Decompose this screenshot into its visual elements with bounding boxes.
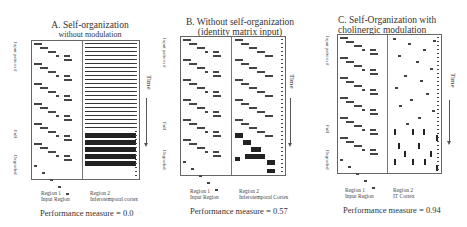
panel-c-time-label: Time [449,73,457,88]
panel-b-full-label: Full [162,122,167,130]
panel-b-performance: Performance measure = 0.57 [190,206,288,216]
panel-c-degraded-label: Degraded [325,150,330,169]
panel-a: A. Self-organization without modulation … [0,0,160,227]
panel-a-region1-label: Region 1 Input Region [41,190,70,202]
panel-a-performance: Performance measure = 0.0 [40,208,134,218]
panel-b-region1-label: Region 1 Input Region [190,188,219,200]
panel-a-region2-label: Region 2 Inferotemporal cortex [90,190,138,202]
panel-c-raster-plot [337,34,442,174]
panel-b-region2-label: Region 2 Inferotemporal Cortex [239,188,288,200]
panel-b: B. Without self-organization (identity m… [150,0,310,227]
panel-c: C. Self-Organization with cholinergic mo… [300,0,467,227]
region-divider [387,35,388,173]
panel-b-time-label: Time [288,74,296,89]
panel-b-raster-plot [180,36,286,176]
panel-b-y-axis-label: Input pattern # [162,38,167,67]
panel-c-region2-label: Region 2 IT Cortex [393,187,414,199]
panel-a-time-arrow-icon [146,98,147,144]
panel-a-raster-plot [31,40,140,180]
panel-c-full-label: Full [325,125,330,133]
region-divider [82,41,83,179]
panel-c-performance: Performance measure = 0.94 [343,205,441,215]
panel-a-degraded-label: Degraded [13,155,18,174]
panel-a-full-label: Full [13,130,18,138]
panel-a-title: A. Self-organization without modulation [30,20,150,40]
panel-b-degraded-label: Degraded [162,150,167,169]
region-divider [231,37,232,175]
panel-b-title: B. Without self-organization (identity m… [180,17,300,37]
panel-c-region1-label: Region 1 Input Region [345,187,374,199]
panel-c-time-arrow-icon [449,100,450,142]
panel-c-y-axis-label: Input pattern # [325,36,330,65]
panel-c-title: C. Self-Organization with cholinergic mo… [330,15,458,35]
panel-a-y-axis-label: Input pattern # [13,42,18,71]
panel-b-time-arrow-icon [290,98,291,144]
